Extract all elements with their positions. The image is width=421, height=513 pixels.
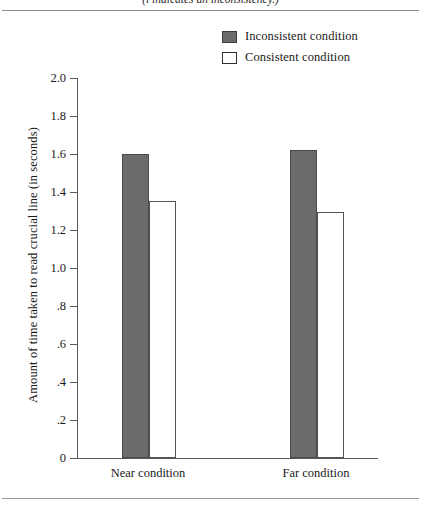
y-axis-tick-mark — [70, 154, 78, 155]
y-axis-tick-mark — [70, 344, 78, 345]
bar-far-consistent — [317, 212, 344, 458]
y-axis-tick-mark — [70, 78, 78, 79]
bar-near-consistent — [149, 201, 176, 458]
y-axis-tick-mark — [70, 192, 78, 193]
y-axis-tick-mark — [70, 306, 78, 307]
figure-frame: (l indicates an inconsistency.) Inconsis… — [0, 0, 421, 513]
bar-near-inconsistent — [122, 154, 149, 458]
y-axis-tick-mark — [70, 268, 78, 269]
x-axis-label-near: Near condition — [83, 466, 213, 481]
x-axis-line — [77, 458, 378, 459]
x-axis-label-far: Far condition — [251, 466, 381, 481]
y-axis-tick-mark — [70, 230, 78, 231]
y-axis-tick-label: 2.0 — [20, 72, 66, 85]
plot-area: 2.01.81.61.41.21.0.8.6.4.20 Amount of ti… — [0, 0, 421, 513]
y-axis-tick-mark — [70, 458, 78, 459]
y-axis-tick-mark — [70, 116, 78, 117]
bar-far-inconsistent — [290, 150, 317, 458]
y-axis-tick-mark — [70, 382, 78, 383]
y-axis-tick-label: 0 — [20, 452, 66, 465]
y-axis-title: Amount of time taken to read crucial lin… — [26, 100, 44, 430]
y-axis-tick-mark — [70, 420, 78, 421]
